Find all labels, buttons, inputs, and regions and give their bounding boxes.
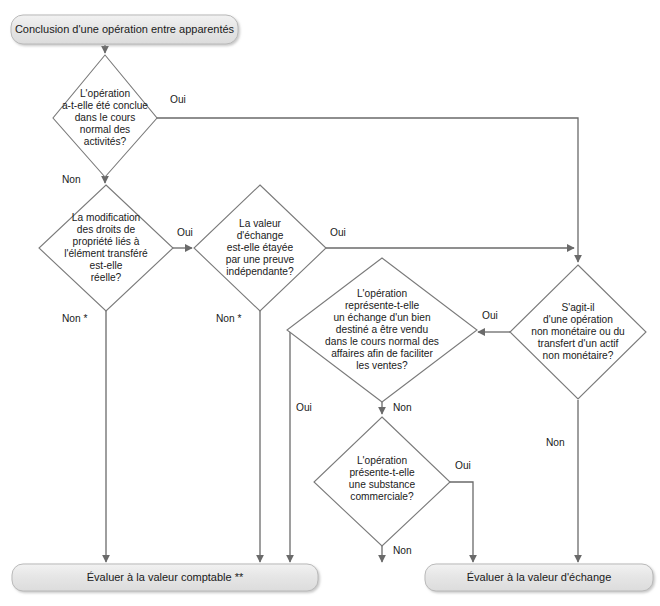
decision-substance-commerciale[interactable]: L'opération présente-t-elle une substanc…: [314, 417, 450, 546]
decision-5-line-1: d'une opération: [543, 314, 613, 325]
decision-4-line-3: destiné a être vendu: [336, 324, 428, 335]
start-node-label: Conclusion d'une opération entre apparen…: [15, 23, 235, 35]
decision-6-line-0: L'opération: [357, 455, 407, 466]
decision-1-line-2: dans le cours: [75, 112, 136, 123]
decision-2-line-3: l'élément transféré: [64, 248, 148, 259]
edge-label-d6-oui: Oui: [455, 460, 471, 471]
decision-echange-bien-destine-vendu[interactable]: L'opération représente-t-elle un échange…: [287, 258, 477, 402]
decision-3-line-4: indépendante?: [226, 266, 294, 277]
edge-label-d3-oui: Oui: [330, 227, 346, 238]
end-node-echange: Évaluer à la valeur d'échange: [425, 564, 653, 591]
decision-5-line-2: non monétaire ou du: [531, 326, 624, 337]
flowchart-svg: Conclusion d'une opération entre apparen…: [0, 0, 660, 606]
decision-1-line-4: activités?: [84, 136, 127, 147]
decision-6-line-3: commerciale?: [350, 491, 414, 502]
decision-4-line-6: les ventes?: [356, 360, 408, 371]
decision-3-line-3: par une preuve: [226, 254, 295, 265]
decision-operation-non-monetaire[interactable]: S'agit-il d'une opération non monétaire …: [510, 265, 646, 399]
decision-4-line-5: affaires afin de faciliter: [331, 348, 433, 359]
end-node-comptable-label: Évaluer à la valeur comptable **: [87, 571, 244, 583]
edge-label-d2-oui: Oui: [177, 227, 193, 238]
edge-label-d4-non: Non: [393, 402, 412, 413]
edge-label-d3-non: Non *: [216, 313, 242, 324]
decision-2-line-5: réelle?: [91, 272, 122, 283]
edge-label-d1-non: Non: [62, 174, 81, 185]
decision-1-line-3: normal des: [80, 124, 130, 135]
start-node: Conclusion d'une opération entre apparen…: [11, 15, 238, 44]
edge-label-d5-oui: Oui: [482, 310, 498, 321]
flowchart-canvas: Conclusion d'une opération entre apparen…: [0, 0, 660, 606]
decision-2-line-1: des droits de: [77, 224, 136, 235]
decision-4-line-1: représente-t-elle: [345, 300, 420, 311]
decision-modification-droits-propriete[interactable]: La modification des droits de propriété …: [39, 185, 173, 311]
decision-1-line-1: a-t-elle été conclue: [62, 100, 148, 111]
decision-3-line-1: d'échange: [237, 230, 284, 241]
decision-6-line-2: une substance: [349, 479, 416, 490]
edge-label-d4-oui: Oui: [296, 402, 312, 413]
decision-valeur-echange-etayee[interactable]: La valeur d'échange est-elle étayée par …: [194, 185, 326, 311]
decision-operation-cours-normal[interactable]: L'opération a-t-elle été conclue dans le…: [53, 55, 157, 177]
edge-label-d1-oui: Oui: [170, 94, 186, 105]
decision-2-line-2: propriété liés à: [73, 236, 140, 247]
decision-5-line-4: non monétaire?: [543, 350, 614, 361]
decision-5-line-3: transfert d'un actif: [538, 338, 619, 349]
end-node-echange-label: Évaluer à la valeur d'échange: [467, 571, 612, 583]
end-node-comptable: Évaluer à la valeur comptable **: [12, 564, 318, 591]
decision-1-line-0: L'opération: [80, 88, 130, 99]
decision-4-line-2: un échange d'un bien: [333, 312, 430, 323]
decision-5-line-0: S'agit-il: [561, 302, 594, 313]
edge-d6-oui-to-echange: [450, 482, 473, 562]
decision-3-line-2: est-elle étayée: [227, 242, 294, 253]
edge-label-d2-non: Non *: [62, 313, 88, 324]
decision-4-line-0: L'opération: [357, 288, 407, 299]
decision-4-line-4: dans le cours normal des: [325, 336, 439, 347]
decision-3-line-0: La valeur: [239, 218, 282, 229]
edge-label-d6-non: Non: [393, 545, 412, 556]
decision-6-line-1: présente-t-elle: [349, 467, 414, 478]
edge-label-d5-non: Non: [546, 437, 565, 448]
decision-2-line-4: est-elle: [90, 260, 123, 271]
decision-2-line-0: La modification: [72, 212, 141, 223]
